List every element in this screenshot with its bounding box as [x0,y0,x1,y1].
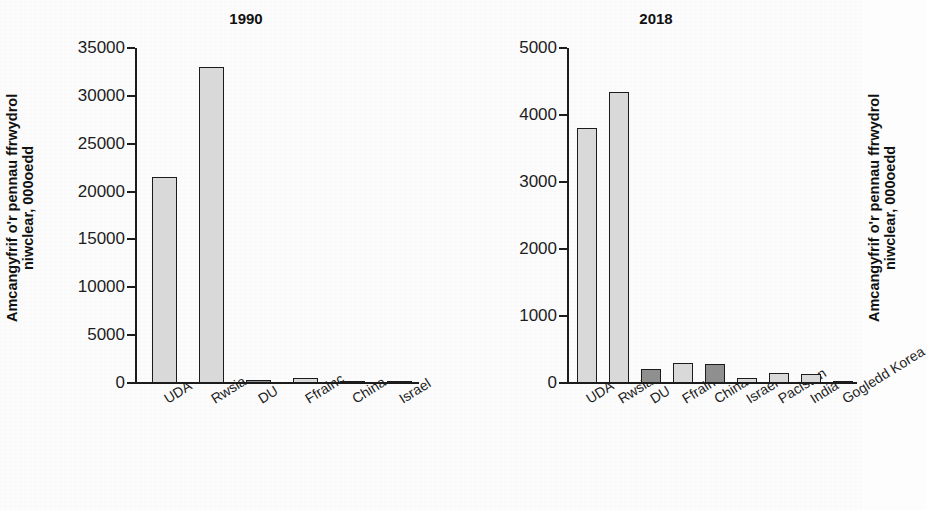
y-tick-label: 0 [116,373,125,393]
y-tick-1-0 [559,382,567,384]
panel-2018-y-axis-label: Amcangyfrif o'r pennau ffrwydrol niwclea… [866,38,898,378]
y-tick-label: 2000 [519,239,557,259]
y-tick-label: 5000 [519,38,557,58]
y-tick-1-3 [559,181,567,183]
y-tick-0-6 [127,95,135,97]
panel-1990-title: 1990 [30,10,462,27]
y-tick-label: 3000 [519,172,557,192]
y-tick-0-7 [127,47,135,49]
bar-uda [152,177,178,383]
y-tick-0-0 [127,382,135,384]
panel-2018-title: 2018 [440,10,872,27]
bar-ffrainc [673,363,693,383]
bar-pacistan [769,373,789,383]
y-tick-0-4 [127,191,135,193]
bar-china [340,381,366,384]
bar-israel [737,378,757,383]
y-tick-label: 35000 [78,38,125,58]
panel-2018-plot-area: 010002000300040005000UDARwsiaDUFfraincCh… [567,48,855,383]
bar-rwsia [199,67,225,383]
bar-israel [387,381,413,384]
y-tick-0-2 [127,286,135,288]
bar-rwsia [609,92,629,383]
bar-du [246,380,272,383]
bar-india [801,374,821,383]
bar-du [641,369,661,383]
y-tick-label: 25000 [78,134,125,154]
panel-2018-y-axis-line [567,48,569,383]
y-tick-label: 30000 [78,86,125,106]
y-tick-1-1 [559,315,567,317]
panel-1990-y-axis-line [135,48,137,383]
bar-uda [577,128,597,383]
y-tick-1-4 [559,114,567,116]
panel-1990-y-axis-label: Amcangyfrif o'r pennau ffrwydrol niwclea… [4,38,36,378]
y-tick-label: 15000 [78,229,125,249]
y-tick-1-2 [559,248,567,250]
y-tick-label: 20000 [78,182,125,202]
y-tick-0-1 [127,334,135,336]
bar-gogledd-korea [833,381,853,384]
bar-ffrainc [293,378,319,383]
bar-china [705,364,725,383]
y-tick-0-5 [127,143,135,145]
y-tick-label: 10000 [78,277,125,297]
y-tick-label: 1000 [519,306,557,326]
y-tick-label: 5000 [87,325,125,345]
y-tick-label: 4000 [519,105,557,125]
panel-1990-plot-area: 05000100001500020000250003000035000UDARw… [135,48,417,383]
y-tick-label: 0 [548,373,557,393]
y-tick-0-3 [127,238,135,240]
y-tick-1-5 [559,47,567,49]
